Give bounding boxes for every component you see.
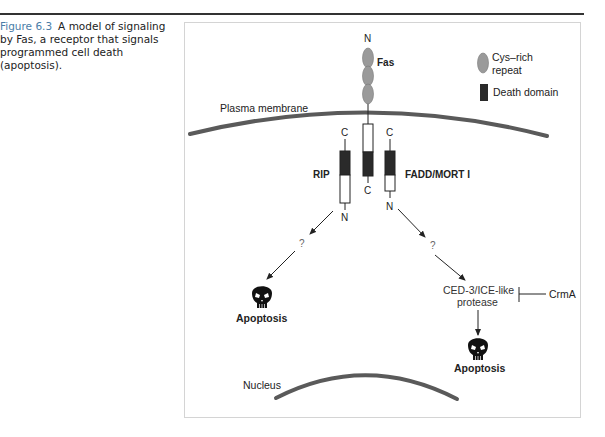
protease-label-line1: CED-3/ICE-like (443, 284, 514, 296)
crma-label: CrmA (549, 288, 576, 300)
fadd-to-question-arrow (398, 209, 425, 237)
legend-cys-rich-line2: repeat (492, 64, 522, 76)
legend: Cys–rich repeat Death domain (478, 51, 559, 101)
legend-cys-rich-line1: Cys–rich (492, 51, 533, 63)
fas-c-terminus: C (364, 185, 371, 196)
legend-death-domain-icon (480, 84, 488, 101)
fas-label: Fas (377, 57, 395, 68)
legend-death-domain-label: Death domain (493, 86, 559, 98)
fadd-n-terminus: N (386, 201, 393, 212)
rip-protein (340, 139, 350, 210)
fadd-label: FADD/MORT I (405, 169, 470, 180)
question-right: ? (430, 240, 436, 251)
question-to-protease-arrow (435, 255, 465, 280)
apoptosis-right-label: Apoptosis (454, 362, 505, 374)
rip-n-terminus: N (341, 212, 348, 223)
legend-cys-rich-icon (478, 53, 489, 73)
cys-rich-repeats (363, 48, 374, 104)
fas-signaling-diagram: Plasma membrane N Fas C C N RIP C N FADD… (0, 0, 605, 437)
rip-c-terminus: C (341, 127, 348, 138)
apoptosis-left-label: Apoptosis (236, 312, 287, 324)
question-to-apoptosis-left-arrow (267, 251, 295, 279)
fadd-protein (385, 139, 395, 198)
skull-icon-left (252, 286, 272, 308)
rip-label: RIP (313, 169, 330, 180)
question-left: ? (299, 238, 305, 249)
fadd-c-terminus: C (386, 127, 393, 138)
nucleus-label: Nucleus (243, 379, 281, 391)
protease-label-line2: protease (457, 296, 498, 308)
plasma-membrane-label: Plasma membrane (220, 102, 308, 114)
nuclear-membrane (276, 375, 457, 399)
skull-icon-right (468, 338, 488, 360)
fas-n-terminus: N (364, 33, 371, 44)
fas-intracellular (363, 124, 373, 183)
rip-to-question-arrow (310, 211, 333, 234)
